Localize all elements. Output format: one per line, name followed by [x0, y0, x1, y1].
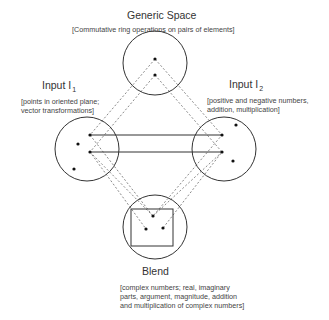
- blend-dot: [151, 214, 154, 217]
- input2-circle: [192, 117, 256, 181]
- input1-title: Input I1: [42, 79, 76, 93]
- cross-space-mapping: [90, 135, 222, 152]
- blend-dot: [144, 227, 147, 230]
- input1-circle: [55, 117, 119, 181]
- input1-dot: [88, 133, 91, 136]
- blend-circle: [123, 195, 187, 259]
- input1-subscript: 1: [72, 86, 76, 93]
- blend-description-line: parts, argument, magnitude, addition: [120, 292, 244, 301]
- generic-space-title: Generic Space: [127, 9, 196, 21]
- outer-projection-diamond: [90, 59, 222, 216]
- generic-space-description: [Commutative ring operations on pairs of…: [72, 25, 235, 34]
- input1-dot: [88, 150, 91, 153]
- input2-dot: [220, 133, 223, 136]
- blend-title: Blend: [142, 265, 169, 277]
- dotted-projection-lines: [90, 59, 222, 229]
- input1-description-line: [points in oriented plane;: [21, 97, 99, 106]
- generic-space-circle: [123, 31, 187, 95]
- blend-description-line: [complex numbers; real, imaginary: [120, 283, 244, 292]
- input1-title-text: Input I: [42, 79, 71, 91]
- cross-projection-left: [90, 152, 153, 216]
- input1-description-line: vector transformations]: [21, 106, 99, 115]
- input1-dot: [76, 142, 79, 145]
- generic-dot: [153, 73, 156, 76]
- blend-description-line: and multiplication of complex numbers]: [120, 301, 244, 310]
- blend-dot: [161, 226, 164, 229]
- generic-dot: [153, 57, 156, 60]
- element-dots: [72, 57, 237, 230]
- input2-dot: [220, 150, 223, 153]
- input2-dot: [234, 123, 237, 126]
- input1-dot: [72, 167, 75, 170]
- input2-title: Input I2: [229, 78, 263, 92]
- blend-description: [complex numbers; real, imaginary parts,…: [120, 283, 244, 310]
- input2-dot: [231, 159, 234, 162]
- input2-subscript: 2: [259, 85, 263, 92]
- input2-description-line: [positive and negative numbers,: [207, 96, 309, 105]
- input2-title-text: Input I: [229, 78, 258, 90]
- input1-description: [points in oriented plane; vector transf…: [21, 97, 99, 115]
- input2-description: [positive and negative numbers, addition…: [207, 96, 309, 114]
- input2-description-line: addition, multiplication]: [207, 105, 309, 114]
- cross-projection-right: [153, 152, 222, 216]
